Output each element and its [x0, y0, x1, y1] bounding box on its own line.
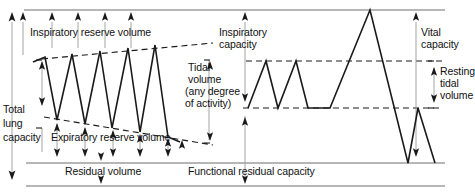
label-inspiratory-reserve-volume: Inspiratory reserve volume — [30, 27, 151, 39]
arrow-up-irv-d — [102, 12, 108, 21]
arrow-up-irv-e — [128, 12, 134, 21]
label-total-lung-capacity-line1: Total — [3, 104, 25, 116]
arrow-up-irv-a — [20, 12, 26, 21]
trace-quiet-and-vital-capacity — [248, 10, 435, 163]
label-functional-residual-capacity: Functional residual capacity — [188, 166, 315, 178]
label-total-lung-capacity-line3: capacity — [3, 132, 41, 144]
label-residual-volume: Residual volume — [65, 166, 141, 178]
label-resting-tidal-volume-line1: Resting — [440, 66, 475, 78]
label-tidal-volume-line3: (any degree — [185, 86, 240, 98]
label-tidal-volume-line1: Tidal — [188, 62, 210, 74]
arrow-up-irv-b — [49, 12, 55, 21]
label-tidal-volume-line2: volume — [188, 74, 221, 86]
label-resting-tidal-volume-line2: tidal — [440, 78, 459, 90]
arrow-up-inspiratory-capacity — [242, 12, 248, 21]
arrow-up-irv-c — [75, 12, 81, 21]
arrow-down-tidal-volume-right — [207, 132, 213, 141]
label-vital-capacity-line2: capacity — [421, 39, 459, 51]
arrow-up-vital-capacity — [413, 12, 419, 21]
arrow-up-total-lung-capacity — [9, 12, 16, 22]
label-inspiratory-capacity-line2: capacity — [219, 39, 257, 51]
label-tidal-volume-line4: of activity) — [185, 98, 231, 110]
arrow-down-residual-volume-top — [98, 152, 104, 161]
label-resting-tidal-volume-line3: volume — [440, 90, 473, 102]
label-inspiratory-capacity-line1: Inspiratory — [219, 27, 267, 39]
label-total-lung-capacity-line2: lung — [3, 118, 22, 130]
label-expiratory-reserve-volume: Expiratory reserve volume — [51, 132, 170, 144]
label-vital-capacity-line1: Vital — [421, 27, 441, 39]
top-arrowheads — [9, 12, 420, 22]
